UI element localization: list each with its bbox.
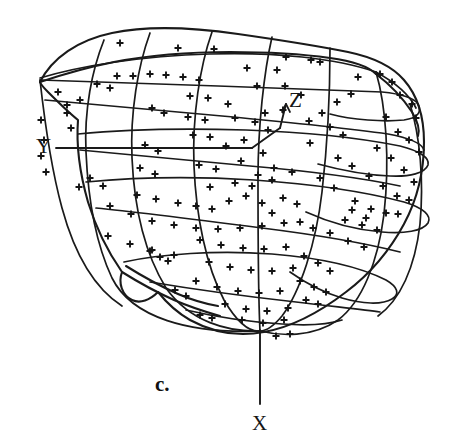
data-point-marker: [185, 114, 192, 121]
data-point-marker: [277, 288, 284, 295]
data-point-marker: [171, 222, 178, 229]
data-point-marker: [307, 140, 314, 147]
data-point-marker: [117, 40, 124, 47]
data-point-marker: [411, 179, 418, 186]
data-point-marker: [190, 132, 197, 139]
data-point-marker: [238, 158, 245, 165]
data-point-marker: [232, 115, 239, 122]
data-point-marker: [319, 110, 326, 117]
y-axis-label: Y: [36, 134, 52, 159]
latitude-ring-3: [45, 100, 424, 150]
data-point-marker: [327, 230, 334, 237]
data-point-marker: [157, 254, 164, 261]
data-point-marker: [290, 265, 297, 272]
data-point-marker: [331, 185, 338, 192]
data-point-marker: [196, 162, 203, 169]
data-point-marker: [55, 89, 62, 96]
data-point-marker: [187, 93, 194, 100]
data-point-marker: [335, 155, 342, 162]
data-point-marker: [269, 177, 276, 184]
data-point-marker: [352, 198, 359, 205]
data-point-marker: [76, 184, 83, 191]
data-point-marker: [395, 211, 402, 218]
data-point-marker: [315, 301, 322, 308]
data-point-marker: [261, 246, 268, 253]
data-point-marker: [281, 220, 288, 227]
data-point-marker: [130, 73, 137, 80]
z-axis-label: Z: [289, 88, 302, 113]
data-point-marker: [206, 259, 213, 266]
data-point-marker: [193, 278, 200, 285]
data-point-marker: [38, 117, 45, 124]
data-point-marker: [287, 331, 294, 338]
meridian-3: [194, 32, 260, 331]
data-point-marker: [43, 169, 50, 176]
data-point-marker: [68, 125, 75, 132]
data-point-marker: [294, 201, 301, 208]
x-axis-label: X: [252, 411, 268, 436]
data-point-marker: [355, 74, 362, 81]
data-point-marker: [241, 137, 248, 144]
data-point-marker: [240, 245, 247, 252]
data-point-marker: [262, 110, 269, 117]
data-point-marker: [345, 238, 352, 245]
data-point-marker: [226, 198, 233, 205]
data-point-marker: [147, 71, 154, 78]
meridian-6: [260, 72, 387, 334]
meridian-4: [258, 37, 272, 331]
latitude-ring-4: [78, 129, 428, 176]
data-point-marker: [401, 167, 408, 174]
data-point-marker: [235, 288, 242, 295]
data-point-marker: [388, 155, 395, 162]
data-point-marker: [368, 206, 375, 213]
data-point-marker: [280, 195, 287, 202]
data-point-marker: [64, 110, 71, 117]
data-point-marker: [175, 200, 182, 207]
sphere-wireframe-plot: [0, 0, 463, 447]
data-point-marker: [363, 215, 370, 222]
data-point-marker: [105, 233, 112, 240]
fold-crease-upper-left: [40, 52, 376, 82]
data-point-marker: [394, 193, 401, 200]
data-point-marker: [269, 268, 276, 275]
meridian-2: [132, 33, 260, 331]
data-point-marker: [205, 95, 212, 102]
data-point-marker: [374, 145, 381, 152]
data-point-marker: [254, 83, 261, 90]
data-point-marker: [152, 171, 159, 178]
data-point-marker: [249, 183, 256, 190]
data-point-marker: [349, 207, 356, 214]
data-point-marker: [306, 118, 313, 125]
data-point-marker: [165, 258, 172, 265]
data-point-marker: [100, 183, 107, 190]
data-point-marker: [107, 85, 114, 92]
data-point-marker: [259, 200, 266, 207]
data-point-marker: [243, 306, 250, 313]
data-point-marker: [271, 165, 278, 172]
data-point-marker: [406, 137, 413, 144]
data-point-marker: [207, 134, 214, 141]
data-point-marker: [149, 218, 156, 225]
data-point-marker: [264, 308, 271, 315]
data-point-marker: [342, 217, 349, 224]
data-point-marker: [255, 172, 262, 179]
data-point-marker: [395, 129, 402, 136]
data-point-marker: [207, 184, 214, 191]
data-point-marker: [349, 163, 356, 170]
data-point-marker: [248, 267, 255, 274]
data-point-marker: [171, 252, 178, 259]
data-point-marker: [244, 65, 251, 72]
data-point-marker: [283, 244, 290, 251]
data-point-marker: [327, 268, 334, 275]
data-point-marker: [359, 222, 366, 229]
data-point-marker: [180, 74, 187, 81]
data-point-marker: [175, 45, 182, 52]
data-point-marker: [196, 77, 203, 84]
data-point-marker: [213, 166, 220, 173]
figure-container: Y Z X c.: [0, 0, 463, 447]
data-point-marker: [202, 117, 209, 124]
figure-caption: c.: [155, 372, 170, 397]
data-point-marker: [215, 226, 222, 233]
data-point-marker: [260, 150, 267, 157]
data-point-marker: [265, 127, 272, 134]
